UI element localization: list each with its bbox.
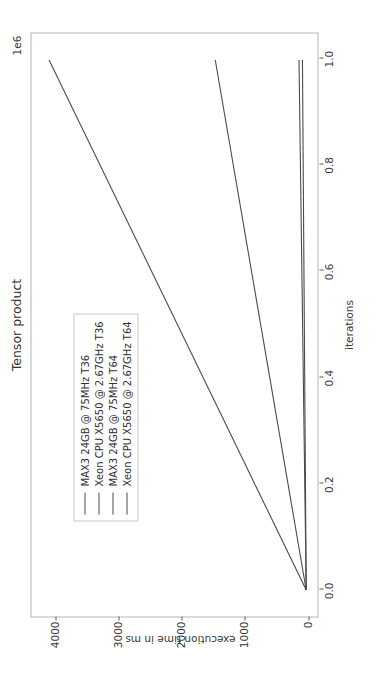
legend-label-0: MAX3 24GB @ 75MHz T36: [79, 354, 90, 486]
x-tick-label: 1.0: [322, 50, 334, 67]
x-tick-label: 0.8: [322, 157, 334, 174]
x-axis-tick-labels: 0.00.20.40.60.81.0: [322, 32, 340, 617]
chart-legend: MAX3 24GB @ 75MHz T36 Xeon CPU X5650 @ 2…: [73, 313, 138, 521]
legend-line-swatch-1: [98, 492, 99, 514]
chart-title: Tensor product: [8, 32, 23, 617]
legend-item: MAX3 24GB @ 75MHz T36: [79, 321, 90, 514]
y-tick-mark: [181, 616, 182, 620]
y-tick-mark: [308, 616, 309, 620]
y-tick-mark: [55, 616, 56, 620]
legend-label-1: Xeon CPU X5650 @ 2.67GHz T36: [93, 321, 104, 486]
x-axis-label: iterations: [342, 32, 354, 617]
y-tick-mark: [244, 616, 245, 620]
legend-item: Xeon CPU X5650 @ 2.67GHz T64: [121, 321, 132, 514]
y-axis-label: execution time in ms: [36, 633, 324, 645]
legend-item: Xeon CPU X5650 @ 2.67GHz T36: [93, 321, 104, 514]
legend-label-2: MAX3 24GB @ 75MHz T64: [107, 354, 118, 486]
x-tick-label: 0.0: [322, 582, 334, 599]
legend-line-swatch-3: [126, 492, 127, 514]
series-line-1: [215, 59, 306, 589]
legend-label-3: Xeon CPU X5650 @ 2.67GHz T64: [121, 321, 132, 486]
x-tick-label: 0.2: [322, 476, 334, 493]
x-tick-label: 0.6: [322, 263, 334, 280]
rotated-figure-wrapper: Tensor product 1e6 MAX3 24GB @ 75MHz T36…: [0, 0, 388, 695]
legend-line-swatch-2: [112, 492, 113, 514]
y-tick-mark: [118, 616, 119, 620]
matplotlib-figure: Tensor product 1e6 MAX3 24GB @ 75MHz T36…: [0, 0, 388, 695]
legend-line-swatch-0: [84, 492, 85, 514]
x-tick-label: 0.4: [322, 369, 334, 386]
x-axis-offset-text: 1e6: [10, 35, 22, 55]
legend-item: MAX3 24GB @ 75MHz T64: [107, 321, 118, 514]
y-tick-label: 0: [301, 621, 313, 628]
plot-area: MAX3 24GB @ 75MHz T36 Xeon CPU X5650 @ 2…: [30, 32, 318, 617]
